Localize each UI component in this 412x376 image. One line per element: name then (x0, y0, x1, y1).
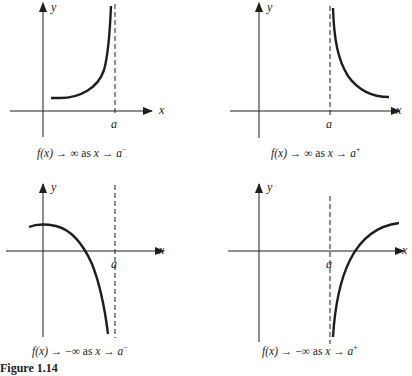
figure-label: Figure 1.14 (0, 361, 58, 376)
asymptote-label: a (111, 257, 117, 272)
function-curve (333, 223, 399, 337)
x-axis-label: x (396, 103, 401, 118)
caption-top-left: f(x) → ∞ as x → a− (37, 145, 126, 159)
y-axis-label: y (267, 180, 272, 195)
caption-bottom-left: f(x) → −∞ as x → a− (32, 343, 128, 357)
function-curve (333, 8, 389, 97)
function-curve (51, 6, 111, 98)
panel-bottom-left (6, 184, 164, 338)
panel-bottom-right (228, 184, 404, 344)
x-axis-label: x (159, 103, 164, 118)
asymptote-label: a (326, 117, 332, 132)
asymptote-label: a (326, 257, 332, 272)
panel-top-left (10, 3, 152, 137)
y-axis-label: y (51, 180, 56, 195)
asymptote-label: a (111, 117, 117, 132)
caption-bottom-right: f(x) → −∞ as x → a+ (262, 343, 358, 357)
caption-top-right: f(x) → ∞ as x → a+ (271, 145, 360, 159)
y-axis-label: y (267, 0, 272, 15)
x-axis-label: x (159, 243, 164, 258)
function-curve (29, 225, 108, 334)
panel-top-right (230, 3, 400, 138)
x-axis-label: x (402, 243, 407, 258)
y-axis-label: y (51, 0, 56, 15)
